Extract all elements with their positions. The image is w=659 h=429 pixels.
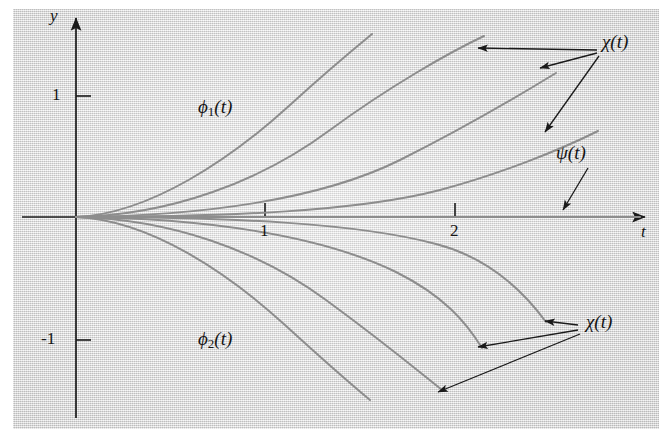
phi2-label: ϕ2(t) — [198, 328, 232, 352]
chi-upper-arrow-2 — [540, 53, 597, 68]
chi-lower-label: χ(t) — [586, 311, 612, 333]
figure-root: y t 1 -1 1 2 ϕ1(t) ϕ2(t) χ(t) χ(t) ψ(t) — [0, 0, 659, 429]
chi-upper-arrows — [478, 48, 599, 132]
curve-chi-upper-2 — [76, 36, 484, 217]
y-tick-label-1: 1 — [52, 85, 61, 105]
psi-arrow — [563, 168, 588, 210]
curve-chi-upper-4 — [76, 131, 598, 217]
psi-arrow-group — [563, 168, 588, 210]
chi-upper-arrow-1 — [478, 48, 597, 50]
phi2-symbol: ϕ — [198, 328, 208, 349]
curve-chi-upper-3 — [76, 73, 556, 217]
chi-lower-arrows — [438, 321, 580, 392]
chi-upper-label: χ(t) — [602, 31, 628, 53]
y-axis-label: y — [50, 6, 58, 26]
phi1-symbol: ϕ — [198, 96, 208, 117]
upper-curves — [76, 34, 598, 217]
chi-lower-arrow-2 — [478, 330, 578, 347]
t-tick-label-1: 1 — [260, 221, 269, 241]
chi-lower-arrow-3 — [438, 334, 580, 392]
phi1-label: ϕ1(t) — [198, 96, 232, 120]
t-axis-label: t — [641, 222, 646, 242]
graph-canvas — [0, 0, 659, 429]
curve-chi-lower-3 — [76, 217, 482, 348]
y-tick-label-minus1: -1 — [41, 329, 55, 349]
curve-phi1 — [76, 34, 372, 217]
t-tick-label-2: 2 — [450, 221, 459, 241]
phi2-argument: (t) — [214, 328, 232, 349]
psi-label: ψ(t) — [556, 142, 586, 164]
chi-lower-arrow-1 — [545, 321, 578, 325]
lower-curves — [76, 217, 546, 400]
phi1-argument: (t) — [214, 96, 232, 117]
chi-upper-arrow-3 — [545, 56, 599, 132]
